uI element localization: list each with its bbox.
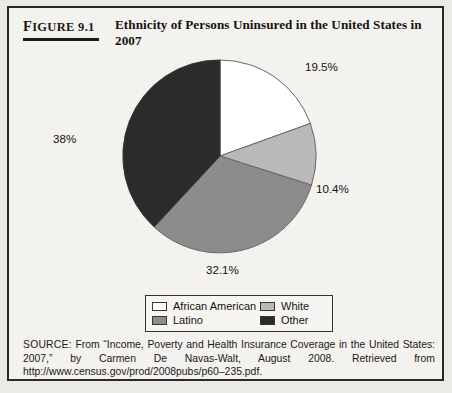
chart-legend: African American White Latino Other xyxy=(145,295,333,332)
figure-number: 9.1 xyxy=(78,20,95,34)
pie-label-other: 38% xyxy=(53,132,76,145)
pie-graphic xyxy=(122,58,318,254)
pie-chart: 19.5% 10.4% 32.1% 38% xyxy=(9,54,442,296)
legend-swatch-latino xyxy=(152,316,167,325)
legend-swatch-other xyxy=(260,316,275,325)
legend-label-latino: Latino xyxy=(173,314,203,326)
pie-svg xyxy=(122,58,318,254)
scanned-page: FIGURE 9.1 Ethnicity of Persons Uninsure… xyxy=(0,0,452,393)
source-note: SOURCE: From “Income, Poverty and Health… xyxy=(23,338,435,379)
pie-label-latino: 32.1% xyxy=(206,263,239,276)
figure-header: FIGURE 9.1 Ethnicity of Persons Uninsure… xyxy=(9,8,442,48)
figure-label-initial: F xyxy=(23,18,32,34)
legend-item-latino: Latino xyxy=(152,314,260,326)
figure-rule xyxy=(23,38,99,41)
page-title: Ethnicity of Persons Uninsured in the Un… xyxy=(115,17,428,48)
pie-label-white: 10.4% xyxy=(316,182,349,195)
figure-label-word: IGURE xyxy=(32,20,74,34)
figure-label-column: FIGURE 9.1 xyxy=(23,17,115,41)
legend-label-other: Other xyxy=(281,314,309,326)
legend-item-white: White xyxy=(260,300,328,312)
figure-frame: FIGURE 9.1 Ethnicity of Persons Uninsure… xyxy=(7,6,444,381)
legend-label-african-american: African American xyxy=(173,300,256,312)
legend-item-african-american: African American xyxy=(152,300,260,312)
figure-label: FIGURE 9.1 xyxy=(23,18,115,35)
legend-swatch-african-american xyxy=(152,302,167,311)
legend-label-white: White xyxy=(281,300,309,312)
source-text: From “Income, Poverty and Health Insuran… xyxy=(23,339,435,377)
pie-label-african-american: 19.5% xyxy=(305,60,338,73)
legend-swatch-white xyxy=(260,302,275,311)
source-label: SOURCE: xyxy=(23,339,72,350)
legend-item-other: Other xyxy=(260,314,328,326)
